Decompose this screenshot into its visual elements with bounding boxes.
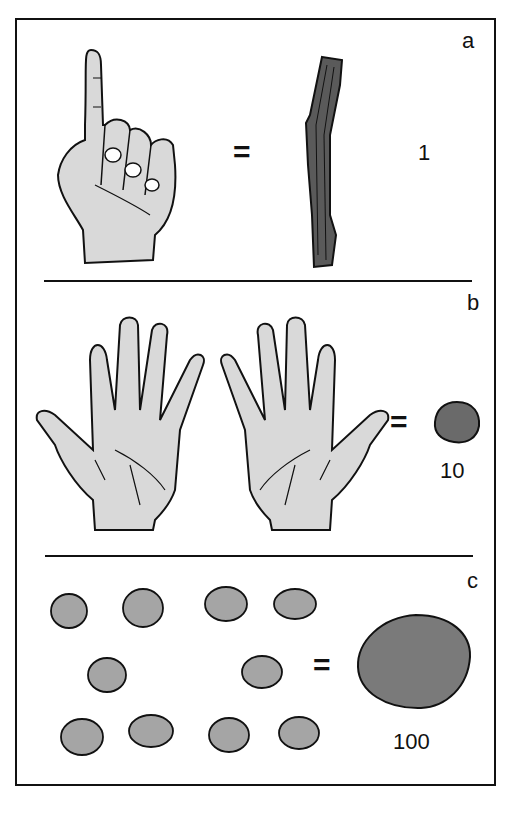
panel-c-value: 100 <box>393 729 430 755</box>
panel-c-equals: = <box>313 648 331 682</box>
large-stone-icon <box>356 612 474 712</box>
